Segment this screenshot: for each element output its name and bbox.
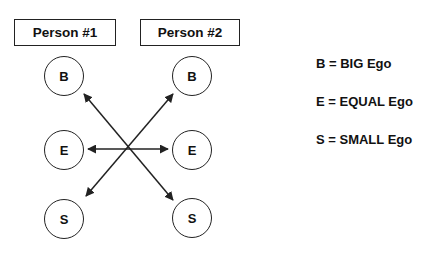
node-label: E — [60, 143, 69, 158]
node-person2-big: B — [172, 56, 212, 96]
node-label: B — [187, 69, 196, 84]
node-person1-small: S — [44, 199, 84, 239]
node-person2-small: S — [172, 198, 212, 238]
node-person1-big: B — [44, 56, 84, 96]
node-label: E — [188, 143, 197, 158]
node-label: B — [59, 69, 68, 84]
node-person1-equal: E — [44, 130, 84, 170]
legend-small: S = SMALL Ego — [316, 132, 412, 147]
node-person2-equal: E — [172, 130, 212, 170]
node-label: S — [60, 212, 69, 227]
legend-equal: E = EQUAL Ego — [316, 94, 413, 109]
arrow-s1-b2 — [86, 94, 173, 196]
node-label: S — [188, 211, 197, 226]
legend-big: B = BIG Ego — [316, 56, 391, 71]
